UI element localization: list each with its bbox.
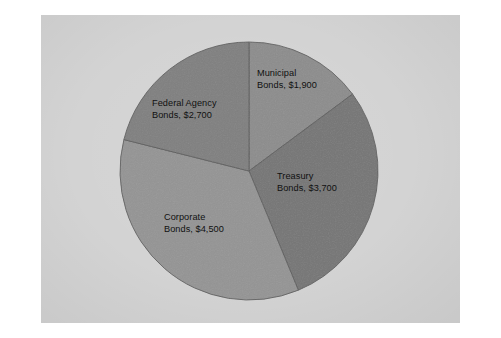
slice-label-municipal-line1: Municipal bbox=[257, 68, 317, 80]
slice-label-municipal-bonds: Municipal Bonds, $1,900 bbox=[257, 68, 317, 91]
slice-label-federal-line1: Federal Agency bbox=[152, 98, 217, 110]
pie-chart-svg bbox=[0, 0, 501, 338]
slice-label-treasury-line1: Treasury bbox=[277, 171, 337, 183]
slice-label-corporate-bonds: Corporate Bonds, $4,500 bbox=[164, 212, 224, 235]
slice-label-corporate-line2: Bonds, $4,500 bbox=[164, 224, 224, 236]
slice-label-federal-agency-bonds: Federal Agency Bonds, $2,700 bbox=[152, 98, 217, 121]
slice-label-federal-line2: Bonds, $2,700 bbox=[152, 110, 217, 122]
slice-label-municipal-line2: Bonds, $1,900 bbox=[257, 80, 317, 92]
slice-label-treasury-line2: Bonds, $3,700 bbox=[277, 183, 337, 195]
slice-label-treasury-bonds: Treasury Bonds, $3,700 bbox=[277, 171, 337, 194]
pie-chart-figure: Municipal Bonds, $1,900 Treasury Bonds, … bbox=[0, 0, 501, 338]
pie-slices-group bbox=[120, 42, 378, 300]
slice-label-corporate-line1: Corporate bbox=[164, 212, 224, 224]
